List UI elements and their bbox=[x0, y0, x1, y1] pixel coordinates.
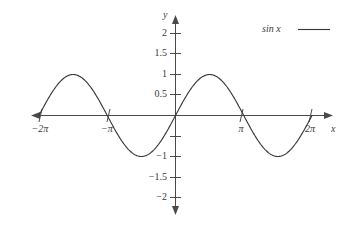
x-tick-label-neg-pi: −π bbox=[92, 124, 122, 134]
x-axis-arrow-right bbox=[324, 112, 333, 119]
sine-function-graph-figure: 2 1.5 1 0.5 −1 −1.5 −2 −2π −π π 2π y x s… bbox=[0, 0, 346, 227]
y-tick-label-neg-1: −1 bbox=[137, 151, 167, 161]
y-axis-arrow-up bbox=[172, 15, 179, 24]
x-tick-label-pi: π bbox=[231, 124, 251, 134]
y-tick-label-2: 2 bbox=[141, 28, 167, 38]
y-axis-title: y bbox=[163, 10, 167, 20]
y-tick-label-1: 1 bbox=[141, 69, 167, 79]
x-tick-label-neg-2pi: −2π bbox=[22, 124, 58, 134]
y-axis-arrow-down bbox=[172, 206, 179, 215]
plot-canvas bbox=[0, 0, 346, 227]
x-axis bbox=[31, 112, 333, 119]
y-tick-label-neg-1_5: −1.5 bbox=[129, 172, 167, 182]
legend-entry-sin-x: sin x bbox=[262, 24, 281, 34]
y-tick-label-1_5: 1.5 bbox=[133, 48, 167, 58]
x-tick-label-2pi: 2π bbox=[295, 124, 325, 134]
y-tick-label-neg-2: −2 bbox=[137, 192, 167, 202]
x-axis-title: x bbox=[331, 124, 335, 134]
y-tick-label-0_5: 0.5 bbox=[133, 89, 167, 99]
